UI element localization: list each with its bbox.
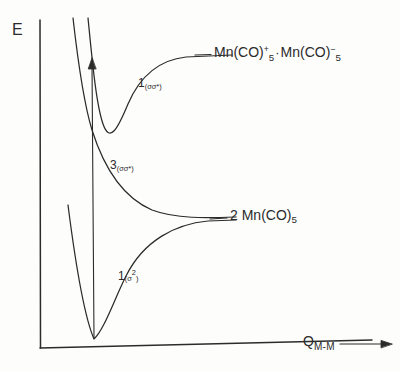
triplet-multiplicity: 3 <box>110 158 117 172</box>
vertical-excitation-arrow-head <box>88 58 96 69</box>
ion-pair-anion-count: 5 <box>335 52 340 63</box>
ion-pair-cation-species: Mn(CO) <box>214 44 264 60</box>
radical-pair-count: 5 <box>291 214 296 225</box>
x-axis-label: QM-M <box>303 334 335 352</box>
y-axis-label: E <box>12 22 23 38</box>
singlet-exc-multiplicity: 1 <box>138 76 145 90</box>
singlet-exc-paren-close: ) <box>159 82 161 91</box>
state-label-triplet-sigma-sigma-star: 3(σσ*) <box>110 159 134 172</box>
x-axis-label-main: Q <box>303 333 314 349</box>
ground-paren-close: ) <box>136 274 138 283</box>
triplet-paren-close: ) <box>131 164 133 173</box>
potential-energy-diagram: E QM-M Mn(CO)+5·Mn(CO)−5 2 Mn(CO)5 1(σσ*… <box>0 0 400 372</box>
curve-triplet-sigma-sigma-star <box>73 18 236 218</box>
singlet-exc-configuration: σσ* <box>147 82 159 91</box>
state-label-singlet-sigma-sigma-star: 1(σσ*) <box>138 77 162 90</box>
right-arrow-icon <box>381 340 392 347</box>
asymptote-label-radical-pair: 2 Mn(CO)5 <box>230 208 297 225</box>
vertical-excitation-arrow-shaft <box>92 64 94 338</box>
radical-pair-species: Mn(CO) <box>242 207 292 223</box>
asymptote-label-ion-pair: Mn(CO)+5·Mn(CO)−5 <box>214 45 341 62</box>
y-axis-line <box>40 20 41 348</box>
ground-multiplicity: 1 <box>118 269 125 283</box>
triplet-configuration: σσ* <box>119 164 131 173</box>
curve-singlet-sigma-sigma-star <box>88 18 232 133</box>
state-label-singlet-sigma-squared: 1(σ2) <box>118 269 138 283</box>
ion-pair-anion-species: Mn(CO) <box>281 44 331 60</box>
ion-pair-leader-line <box>195 55 211 56</box>
radical-pair-coefficient: 2 <box>230 207 238 223</box>
x-axis-label-subscript: M-M <box>314 341 335 352</box>
